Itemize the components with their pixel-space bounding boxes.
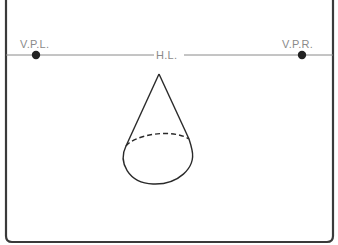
cone-left-edge xyxy=(126,74,159,146)
cone-base-hidden-arc xyxy=(126,133,189,146)
vanishing-point-left-label: V.P.L. xyxy=(20,38,49,50)
vanishing-point-left-dot xyxy=(32,51,40,59)
vanishing-point-right-dot xyxy=(298,51,306,59)
frame-border xyxy=(6,0,333,242)
vanishing-point-right-label: V.P.R. xyxy=(282,38,313,50)
cone-right-edge xyxy=(159,74,189,139)
perspective-diagram: V.P.L. V.P.R. H.L. xyxy=(0,0,338,245)
horizon-line-label: H.L. xyxy=(154,49,179,61)
cone-base-front-arc xyxy=(123,139,192,184)
